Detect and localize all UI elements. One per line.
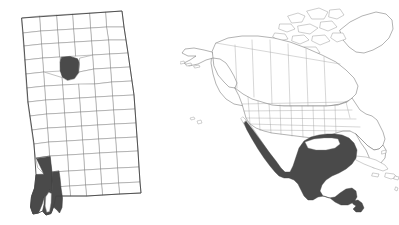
alabama-county-map-panel [0, 0, 180, 225]
county [109, 40, 128, 54]
county [65, 112, 82, 127]
north-america-map-panel [180, 0, 399, 225]
arctic-island [320, 21, 337, 31]
county [100, 152, 118, 169]
county [118, 167, 140, 183]
county [34, 142, 50, 158]
puerto-rico-island [394, 176, 399, 180]
county [102, 183, 120, 195]
county [112, 81, 134, 96]
arctic-island [307, 8, 328, 19]
hawaii-island [197, 120, 202, 124]
county [42, 43, 60, 58]
county [83, 139, 100, 154]
county [22, 16, 41, 33]
arctic-island [312, 35, 330, 45]
canada-mainland [211, 36, 358, 106]
alabama-counties-group [22, 11, 141, 215]
county [114, 109, 136, 124]
county [96, 96, 114, 111]
county [85, 169, 102, 185]
county [57, 14, 74, 30]
county [48, 127, 67, 142]
county [66, 126, 83, 141]
arctic-island [292, 35, 309, 44]
county [84, 153, 101, 170]
arctic-island [329, 9, 344, 19]
county [79, 84, 96, 98]
county [99, 138, 117, 153]
aleutian-island [194, 65, 200, 68]
county [107, 27, 126, 40]
county [27, 86, 46, 102]
north-america-map-svg [180, 0, 399, 225]
county [74, 28, 92, 42]
county [82, 125, 99, 140]
county [90, 12, 107, 28]
county [46, 99, 65, 114]
alabama-county-map-svg [0, 0, 180, 225]
county [70, 185, 87, 196]
county [106, 11, 124, 27]
county [43, 57, 61, 72]
county [25, 58, 44, 74]
county [64, 98, 81, 113]
county [50, 155, 69, 172]
county [45, 85, 64, 100]
county [63, 84, 80, 99]
county [44, 72, 63, 86]
county [73, 13, 91, 29]
county [110, 53, 130, 68]
county [95, 82, 113, 97]
county [97, 110, 115, 125]
county [68, 154, 85, 171]
county [58, 29, 75, 43]
county [119, 182, 141, 194]
county [30, 114, 48, 130]
county [98, 124, 116, 139]
aleutian-island [180, 61, 185, 64]
county [24, 44, 43, 60]
county [113, 95, 135, 110]
county [69, 170, 86, 186]
lesser-antilles-island [395, 187, 398, 191]
hawaii-island [190, 117, 195, 120]
county [28, 100, 47, 116]
county [81, 111, 98, 126]
range-map-figure [0, 0, 399, 225]
county [86, 184, 103, 196]
county [41, 30, 59, 44]
county [93, 54, 111, 69]
county [101, 168, 119, 184]
range-panama-tail [352, 200, 364, 212]
county [67, 140, 84, 155]
county [116, 137, 138, 152]
county [49, 141, 68, 156]
county [80, 97, 97, 112]
county [91, 27, 109, 41]
arctic-island [288, 13, 305, 23]
county [92, 40, 110, 55]
county [59, 42, 76, 57]
arctic-island [279, 24, 295, 32]
north-america-landmass-group [180, 8, 399, 212]
county [111, 67, 132, 82]
county [26, 72, 45, 88]
county [75, 41, 93, 56]
county [94, 68, 112, 84]
county [32, 128, 49, 144]
county [23, 31, 42, 46]
county [117, 151, 139, 168]
county [47, 113, 66, 128]
jamaica-island [372, 173, 379, 177]
county [40, 15, 58, 31]
county [115, 123, 137, 138]
arctic-island [298, 24, 318, 34]
greenland-outline [340, 12, 393, 53]
